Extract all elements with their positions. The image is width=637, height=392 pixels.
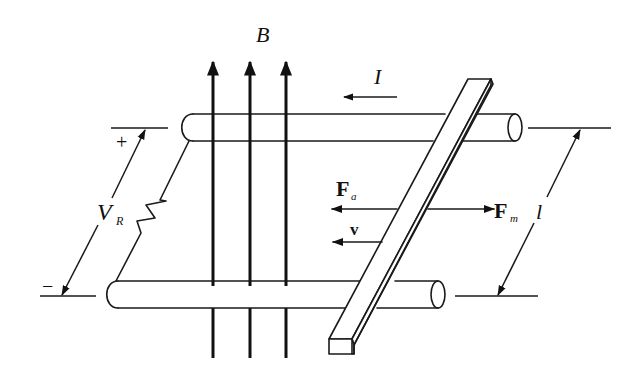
minus-label: − (42, 275, 53, 297)
length-label: l (536, 199, 542, 224)
magnetic-force-subscript: m (510, 212, 518, 224)
resistor (116, 141, 189, 281)
voltage-subscript: R (115, 214, 124, 228)
lower-rail (107, 281, 445, 308)
voltage-label: V (97, 199, 114, 225)
plus-label: + (116, 131, 127, 153)
velocity-label: v (350, 220, 359, 239)
applied-force-subscript: a (351, 190, 357, 202)
field-lines-lower (213, 308, 286, 358)
field-label: B (256, 22, 269, 47)
magnetic-force-label: F (494, 198, 507, 223)
voltage-dimension: + − V R (40, 128, 168, 297)
current-arrow: I (344, 64, 397, 97)
current-label: I (373, 64, 383, 89)
length-dimension: l (455, 128, 611, 296)
applied-force-label: F (336, 176, 349, 201)
linear-dc-machine-diagram: I B + − V R l F a F m v (0, 0, 637, 392)
field-lines-upper (213, 62, 286, 286)
